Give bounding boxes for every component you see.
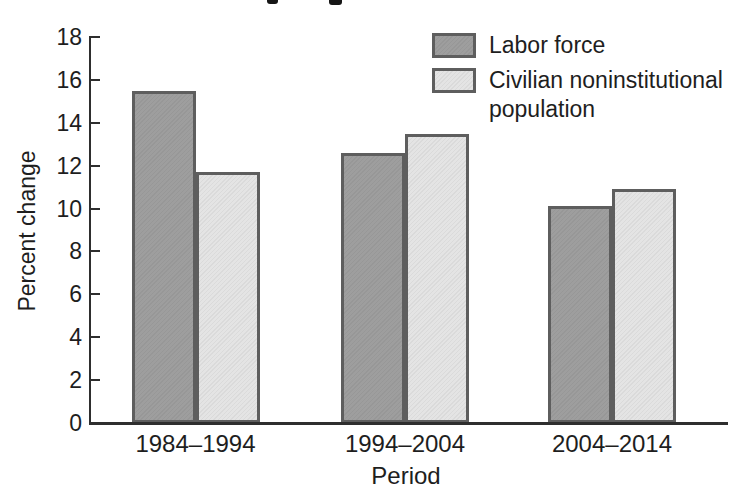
bar-labor-force (548, 206, 612, 423)
bar-population (612, 189, 676, 423)
legend-item: Civilian noninstitutional population (432, 66, 751, 124)
legend-label: Labor force (489, 31, 605, 60)
y-tick-label: 18 (34, 24, 82, 50)
cropped-title-descender-fragment (329, 0, 342, 5)
y-tick-label: 4 (34, 324, 82, 350)
y-tick (91, 36, 100, 38)
y-tick (91, 293, 100, 295)
y-tick-label: 0 (34, 410, 82, 436)
x-axis-line (89, 422, 728, 425)
y-tick-label: 2 (34, 367, 82, 393)
x-category-label: 1984–1994 (86, 431, 306, 457)
legend-swatch (432, 68, 476, 93)
x-category-label: 1994–2004 (295, 431, 515, 457)
cropped-title-descender-fragment (267, 0, 278, 4)
y-tick (91, 122, 100, 124)
y-tick (91, 208, 100, 210)
y-tick (91, 79, 100, 81)
y-axis-line (89, 36, 91, 424)
bar-labor-force (132, 91, 196, 423)
y-tick-label: 14 (34, 110, 82, 136)
legend-item: Labor force (432, 31, 605, 60)
y-tick-label: 10 (34, 196, 82, 222)
y-tick-label: 16 (34, 67, 82, 93)
legend-swatch (432, 33, 476, 58)
y-tick-label: 8 (34, 238, 82, 264)
y-tick (91, 250, 100, 252)
y-tick (91, 379, 100, 381)
bar-labor-force (341, 153, 405, 423)
y-tick (91, 336, 100, 338)
x-axis-title: Period (371, 462, 440, 490)
y-tick-label: 12 (34, 153, 82, 179)
y-tick-label: 6 (34, 281, 82, 307)
bar-population (405, 134, 469, 424)
bar-chart: Percent change 0246810121416181984–19941… (0, 0, 753, 498)
bar-population (196, 172, 260, 423)
y-tick (91, 165, 100, 167)
x-category-label: 2004–2014 (502, 431, 722, 457)
legend-label: Civilian noninstitutional population (489, 66, 751, 124)
